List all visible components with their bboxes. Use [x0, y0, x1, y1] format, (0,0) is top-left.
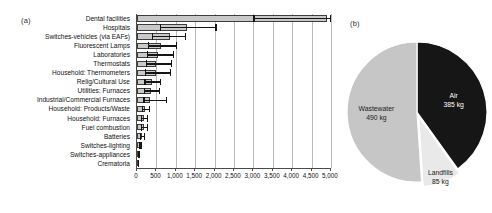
error-bar-cap: [147, 51, 148, 58]
pie-slice-value: 385 kg: [424, 100, 484, 109]
gridline: [331, 14, 332, 168]
x-tick-label: 3,500: [264, 172, 280, 179]
error-bar-line: [145, 72, 171, 73]
bar-row: [137, 23, 331, 32]
pie-slice-name: Air: [424, 91, 484, 100]
error-bar-cap: [171, 60, 172, 67]
category-label: Crematoria: [0, 159, 133, 168]
x-tick: [136, 168, 137, 171]
bar-plot-area: [136, 14, 331, 168]
x-tick: [272, 168, 273, 171]
pie-slice-name: Landfills: [410, 168, 470, 177]
error-bar-line: [146, 63, 172, 64]
error-bar-cap: [145, 69, 146, 76]
bar-row: [137, 14, 331, 23]
x-tick: [233, 168, 234, 171]
category-label: Hospitals: [0, 23, 133, 32]
x-tick: [155, 168, 156, 171]
pie-slice-label: Wastewater490 kg: [346, 104, 406, 122]
error-bar-line: [152, 36, 186, 37]
error-bar-cap: [144, 88, 145, 95]
error-bar-cap: [141, 115, 142, 122]
error-bar-cap: [144, 133, 145, 140]
error-bar-cap: [330, 15, 331, 22]
error-bar-cap: [160, 24, 161, 31]
bar-row: [137, 150, 331, 159]
category-label: Utilities: Furnaces: [0, 86, 133, 95]
bar-row: [137, 123, 331, 132]
bar-row: [137, 68, 331, 77]
bar-row: [137, 59, 331, 68]
error-bar-cap: [148, 42, 149, 49]
category-label: Dental facilities: [0, 14, 133, 23]
x-tick: [291, 168, 292, 171]
error-bar-cap: [166, 97, 167, 104]
error-bar-line: [144, 90, 160, 91]
error-bar-line: [147, 54, 175, 55]
x-tick-label: 0: [134, 172, 138, 179]
error-bar-cap: [140, 133, 141, 140]
error-bar-cap: [149, 106, 150, 113]
pie-slice-label: Air385 kg: [424, 91, 484, 109]
bar-row: [137, 159, 331, 168]
x-tick: [214, 168, 215, 171]
error-bar-cap: [142, 106, 143, 113]
category-label: Thermostats: [0, 59, 133, 68]
error-bar-cap: [147, 115, 148, 122]
bar-row: [137, 114, 331, 123]
bar-chart-panel: Dental facilitiesHospitalsSwitches-vehic…: [0, 0, 340, 213]
bar-row: [137, 141, 331, 150]
error-bar-line: [144, 81, 161, 82]
error-bar-line: [160, 27, 217, 28]
error-bar-cap: [147, 124, 148, 131]
bar-row: [137, 32, 331, 41]
error-bar-cap: [176, 42, 177, 49]
error-bar-cap: [159, 88, 160, 95]
x-tick-label: 5,000: [322, 172, 338, 179]
error-bar-cap: [143, 97, 144, 104]
category-label: Household: Products/Waste: [0, 104, 133, 113]
bar-row: [137, 105, 331, 114]
category-label: Relig/Cultural Use: [0, 77, 133, 86]
pie-slice-name: Wastewater: [346, 104, 406, 113]
pie-chart-panel: Air385 kgLandfills85 kgWastewater490 kg: [340, 0, 492, 213]
category-label: Household: Furnaces: [0, 114, 133, 123]
x-tick: [311, 168, 312, 171]
error-bar-line: [148, 45, 177, 46]
error-bar-cap: [173, 51, 174, 58]
error-bar-line: [253, 18, 331, 19]
error-bar-cap: [138, 160, 139, 167]
x-tick-label: 2,000: [206, 172, 222, 179]
error-bar-line: [143, 100, 167, 101]
category-label: Switches-vehicles (via EAFs): [0, 32, 133, 41]
error-bar-cap: [170, 69, 171, 76]
x-tick-label: 500: [150, 172, 161, 179]
category-label: Switches-appliances: [0, 150, 133, 159]
error-bar-cap: [160, 79, 161, 86]
error-bar-cap: [215, 24, 216, 31]
category-label: Switches-lighting: [0, 141, 133, 150]
category-label: Industrial/Commercial Furnaces: [0, 95, 133, 104]
bar-row: [137, 77, 331, 86]
error-bar-cap: [144, 79, 145, 86]
error-bar-cap: [146, 60, 147, 67]
error-bar-cap: [138, 151, 139, 158]
error-bar-cap: [141, 124, 142, 131]
x-tick-label: 3,000: [245, 172, 261, 179]
bar-row: [137, 86, 331, 95]
x-tick-label: 4,500: [303, 172, 319, 179]
category-label: Fluorescent Lamps: [0, 41, 133, 50]
bar-row: [137, 95, 331, 104]
pie-slice-value: 85 kg: [410, 177, 470, 186]
pie-slice-value: 490 kg: [346, 113, 406, 122]
error-bar-cap: [140, 142, 141, 149]
error-bar-cap: [185, 33, 186, 40]
bar-row: [137, 50, 331, 59]
x-tick: [330, 168, 331, 171]
bar-row: [137, 132, 331, 141]
error-bar-cap: [253, 15, 254, 22]
x-tick: [175, 168, 176, 171]
x-tick-label: 2,500: [225, 172, 241, 179]
x-tick-label: 1,000: [167, 172, 183, 179]
category-axis-labels: Dental facilitiesHospitalsSwitches-vehic…: [0, 14, 133, 168]
